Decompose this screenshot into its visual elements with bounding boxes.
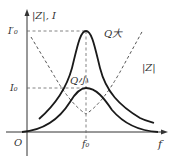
current-curve-q-large — [39, 31, 154, 123]
x-axis-arrow-icon — [161, 130, 168, 135]
tick-f0: f₀ — [81, 138, 90, 149]
label-q-large: Q大 — [104, 28, 123, 39]
tick-i0: I₀ — [9, 82, 18, 93]
tick-i0-prime: I′₀ — [7, 25, 18, 36]
y-axis-label: |Z|, I — [32, 10, 57, 22]
x-axis-label: f — [157, 138, 164, 151]
label-impedance: |Z| — [142, 62, 156, 74]
resonance-diagram: |Z|, I I′₀ I₀ Q大 Q小 |Z| O f₀ f — [0, 0, 177, 156]
y-axis-arrow-icon — [25, 9, 30, 16]
origin-label: O — [14, 137, 22, 148]
label-q-small: Q小 — [70, 75, 89, 86]
current-curve-q-small — [22, 88, 158, 132]
impedance-curve — [31, 30, 143, 114]
